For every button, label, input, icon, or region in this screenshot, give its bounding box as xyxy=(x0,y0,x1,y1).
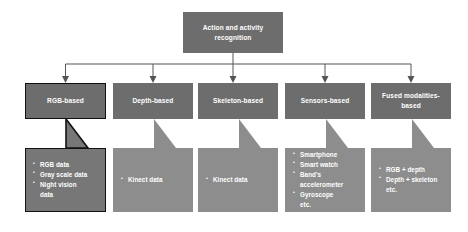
list-item: Gray scale data xyxy=(33,170,100,179)
diagram-canvas: Action and activity recognition RGB-base… xyxy=(0,0,468,232)
branch-callout-rgb-based[interactable]: RGB data Gray scale data Night vision da… xyxy=(25,148,106,212)
list-item-etc: etc. xyxy=(379,185,446,194)
branch-item-list: RGB data Gray scale data Night vision da… xyxy=(33,160,100,200)
list-item: Kinect data xyxy=(121,175,188,184)
list-item: Depth + skeleton xyxy=(379,175,446,184)
branch-header-fused-modalities-based[interactable]: Fused modalities-based xyxy=(371,83,451,119)
branch-header-skeleton-based[interactable]: Skeleton-based xyxy=(198,83,278,119)
branch-header-label: Sensors-based xyxy=(298,96,353,106)
branch-callout-depth-based[interactable]: Kinect data xyxy=(113,148,193,212)
root-node[interactable]: Action and activity recognition xyxy=(183,12,283,53)
root-node-label: Action and activity recognition xyxy=(183,23,283,42)
list-item: Gyroscope xyxy=(293,190,360,199)
branch-item-list: Kinect data xyxy=(121,175,188,185)
list-item: Smartphone xyxy=(293,150,360,159)
list-item-continuation: accelerometer xyxy=(293,180,360,189)
list-item: RGB data xyxy=(33,160,100,169)
list-item-continuation: data xyxy=(33,190,100,199)
branch-callout-sensors-based[interactable]: Smartphone Smart watch Band's accelerome… xyxy=(285,148,365,212)
list-item: Night vision xyxy=(33,180,100,189)
branch-callout-fused-modalities-based[interactable]: RGB + depth Depth + skeleton etc. xyxy=(371,148,451,212)
list-item-etc: etc. xyxy=(293,200,360,209)
branch-header-label: Skeleton-based xyxy=(210,96,266,106)
list-item: Kinect data xyxy=(206,175,273,184)
branch-item-list: Kinect data xyxy=(206,175,273,185)
list-item: Band's xyxy=(293,170,360,179)
branch-item-list: RGB + depth Depth + skeleton etc. xyxy=(379,165,446,195)
list-item: RGB + depth xyxy=(379,165,446,174)
list-item: Smart watch xyxy=(293,160,360,169)
branch-header-label: RGB-based xyxy=(44,96,87,106)
branch-header-label: Fused modalities-based xyxy=(371,91,451,110)
branch-header-depth-based[interactable]: Depth-based xyxy=(113,83,193,119)
branch-item-list: Smartphone Smart watch Band's accelerome… xyxy=(293,150,360,210)
branch-header-sensors-based[interactable]: Sensors-based xyxy=(285,83,365,119)
branch-header-label: Depth-based xyxy=(129,96,176,106)
branch-header-rgb-based[interactable]: RGB-based xyxy=(25,83,106,119)
branch-callout-skeleton-based[interactable]: Kinect data xyxy=(198,148,278,212)
